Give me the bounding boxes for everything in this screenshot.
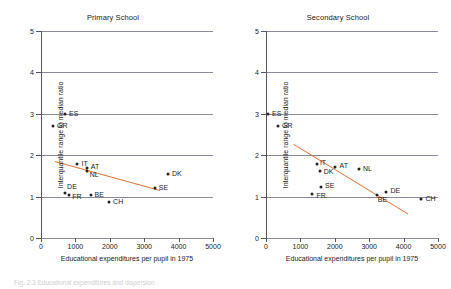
- data-point-label: CH: [113, 198, 123, 205]
- data-point-label: ES: [69, 110, 78, 117]
- data-point: [85, 169, 88, 172]
- data-point: [108, 200, 111, 203]
- y-tick-label-4: 4: [30, 69, 34, 76]
- x-tick-label-3000: 3000: [361, 243, 377, 250]
- x-tick-label-5000: 5000: [430, 243, 446, 250]
- gridline-y-3: [266, 114, 438, 115]
- data-point: [320, 186, 323, 189]
- gridline-y-1: [41, 197, 213, 198]
- x-axis-title-secondary: Educational expenditures per pupil in 19…: [286, 255, 418, 262]
- x-tick-5000: [438, 238, 439, 242]
- x-tick-label-2000: 2000: [327, 243, 343, 250]
- data-point-label: BE: [95, 191, 104, 198]
- data-point: [385, 191, 388, 194]
- x-tick-label-4000: 4000: [396, 243, 412, 250]
- x-tick-0: [41, 238, 42, 242]
- data-point: [311, 192, 314, 195]
- x-tick-0: [266, 238, 267, 242]
- data-point-label: CH: [425, 195, 435, 202]
- gridline-y-4: [41, 72, 213, 73]
- gridline-y-5: [266, 31, 438, 32]
- data-point: [267, 112, 270, 115]
- plot-frame: 012345010002000300040005000ESGRITATDKNLS…: [266, 31, 438, 238]
- data-point: [76, 162, 79, 165]
- data-point-label: SE: [325, 182, 334, 189]
- plot-area-primary: 012345010002000300040005000ESGRITATNLDEF…: [41, 31, 213, 238]
- chart-title-primary: Primary School: [0, 13, 226, 22]
- y-tick-label-1: 1: [30, 193, 34, 200]
- y-tick-label-5: 5: [30, 28, 34, 35]
- x-tick-1000: [300, 238, 301, 242]
- y-tick-label-1: 1: [255, 193, 259, 200]
- gridline-y-0: [41, 238, 213, 239]
- x-tick-4000: [404, 238, 405, 242]
- data-point-label: ES: [272, 110, 281, 117]
- y-axis-line: [41, 31, 42, 238]
- chart-title-secondary: Secondary School: [225, 13, 451, 22]
- data-point: [64, 192, 67, 195]
- data-point: [153, 186, 156, 189]
- data-point: [52, 125, 55, 128]
- x-tick-2000: [110, 238, 111, 242]
- x-tick-4000: [179, 238, 180, 242]
- data-point-label: DK: [172, 170, 182, 177]
- gridline-y-2: [41, 155, 213, 156]
- plot-area-secondary: 012345010002000300040005000ESGRITATDKNLS…: [266, 31, 438, 238]
- chart-panel-primary: Primary School 0123450100020003000400050…: [0, 0, 226, 275]
- data-point-label: DE: [67, 183, 77, 190]
- y-axis-title-secondary: Interquantile range to median ratio: [282, 81, 289, 188]
- data-point-label: FR: [316, 192, 325, 199]
- data-point: [68, 193, 71, 196]
- data-point-label: IT: [320, 159, 326, 166]
- x-tick-label-2000: 2000: [102, 243, 118, 250]
- data-point: [357, 167, 360, 170]
- y-axis-title-primary: Interquantile range to median ratio: [57, 81, 64, 188]
- data-point: [334, 165, 337, 168]
- y-tick-label-3: 3: [255, 110, 259, 117]
- x-tick-label-1000: 1000: [293, 243, 309, 250]
- x-tick-3000: [369, 238, 370, 242]
- x-tick-label-5000: 5000: [205, 243, 221, 250]
- data-point-label: AT: [339, 162, 347, 169]
- gridline-y-5: [41, 31, 213, 32]
- data-point-label: SE: [159, 184, 168, 191]
- y-tick-label-5: 5: [255, 28, 259, 35]
- x-tick-label-0: 0: [264, 243, 268, 250]
- x-tick-2000: [335, 238, 336, 242]
- x-tick-label-1000: 1000: [68, 243, 84, 250]
- y-tick-label-4: 4: [255, 69, 259, 76]
- data-point-label: NL: [90, 171, 99, 178]
- data-point-label: DK: [324, 168, 334, 175]
- gridline-y-0: [266, 238, 438, 239]
- chart-panel-secondary: Secondary School 01234501000200030004000…: [225, 0, 451, 275]
- data-point-label: AT: [91, 163, 99, 170]
- gridline-y-2: [266, 155, 438, 156]
- gridline-y-3: [41, 114, 213, 115]
- y-tick-label-0: 0: [30, 235, 34, 242]
- x-tick-3000: [144, 238, 145, 242]
- data-point-label: DE: [390, 187, 400, 194]
- x-tick-label-4000: 4000: [171, 243, 187, 250]
- gridline-y-4: [266, 72, 438, 73]
- x-tick-1000: [75, 238, 76, 242]
- y-tick-label-2: 2: [30, 152, 34, 159]
- data-point: [315, 162, 318, 165]
- figure-root: Primary School 0123450100020003000400050…: [0, 0, 451, 289]
- x-tick-label-0: 0: [39, 243, 43, 250]
- x-tick-5000: [213, 238, 214, 242]
- figure-caption: Fig. 2.3 Educational expenditures and di…: [14, 279, 155, 286]
- y-tick-label-3: 3: [30, 110, 34, 117]
- plot-frame: 012345010002000300040005000ESGRITATNLDEF…: [41, 31, 213, 238]
- data-point-label: BE: [378, 196, 387, 203]
- data-point-label: NL: [363, 165, 372, 172]
- data-point: [89, 193, 92, 196]
- data-point: [420, 198, 423, 201]
- x-tick-label-3000: 3000: [136, 243, 152, 250]
- data-point: [318, 169, 321, 172]
- x-axis-title-primary: Educational expenditures per pupil in 19…: [61, 255, 193, 262]
- y-tick-label-0: 0: [255, 235, 259, 242]
- data-point: [166, 172, 169, 175]
- data-point: [277, 125, 280, 128]
- gridline-y-1: [266, 197, 438, 198]
- data-point: [64, 112, 67, 115]
